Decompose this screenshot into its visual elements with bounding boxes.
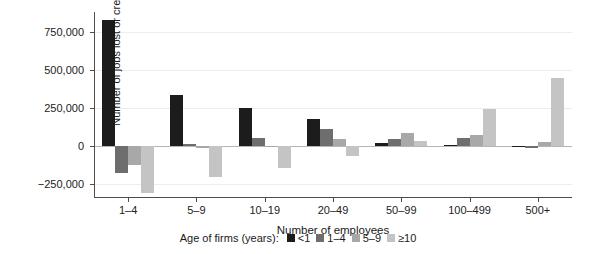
bar xyxy=(388,139,401,147)
bar xyxy=(346,146,359,156)
bar xyxy=(414,141,427,146)
x-tick-mark xyxy=(265,198,266,202)
y-axis-line xyxy=(94,12,95,198)
legend-label: ≥10 xyxy=(398,232,416,244)
bar xyxy=(457,138,470,146)
legend-label: 1–4 xyxy=(327,232,345,244)
x-tick-label: 1–4 xyxy=(119,204,137,216)
x-tick-label: 20–49 xyxy=(318,204,349,216)
bar xyxy=(333,139,346,146)
legend-swatch-icon xyxy=(287,234,295,242)
bar xyxy=(307,119,320,146)
y-tick-mark xyxy=(90,146,94,147)
bar xyxy=(141,146,154,193)
y-tick-label: 250,000 xyxy=(44,102,84,114)
x-tick-mark xyxy=(128,198,129,202)
bar xyxy=(278,146,291,167)
bar xyxy=(538,142,551,147)
zero-line xyxy=(94,146,572,147)
bar xyxy=(196,146,209,148)
x-tick-label: 50–99 xyxy=(386,204,417,216)
x-tick-mark xyxy=(401,198,402,202)
bar xyxy=(170,95,183,146)
y-tick-mark xyxy=(90,32,94,33)
x-tick-label: 100–499 xyxy=(448,204,491,216)
x-tick-mark xyxy=(196,198,197,202)
legend-label: 5–9 xyxy=(363,232,381,244)
bar xyxy=(470,135,483,146)
bar xyxy=(115,146,128,173)
x-tick-mark xyxy=(538,198,539,202)
bar xyxy=(401,133,414,146)
legend-item: 1–4 xyxy=(316,232,345,244)
y-tick-label: 750,000 xyxy=(44,26,84,38)
x-tick-label: 10–19 xyxy=(249,204,280,216)
y-tick-label: −250,000 xyxy=(38,178,84,190)
gridline xyxy=(94,108,572,109)
bar xyxy=(252,138,265,146)
legend-label: <1 xyxy=(298,232,311,244)
bar xyxy=(375,143,388,146)
bar xyxy=(183,144,196,146)
y-tick-label: 0 xyxy=(78,140,84,152)
y-axis-title: Number of jobs lost or created xyxy=(110,0,122,132)
gridline xyxy=(94,32,572,33)
legend-swatch-icon xyxy=(352,234,360,242)
legend-item: <1 xyxy=(287,232,311,244)
x-tick-mark xyxy=(470,198,471,202)
bar xyxy=(320,129,333,146)
legend: Age of firms (years): <11–45–9≥10 xyxy=(0,232,596,244)
plot-area: −250,0000250,000500,000750,000 1–45–910–… xyxy=(94,12,572,198)
legend-title: Age of firms (years): xyxy=(180,232,279,244)
bar xyxy=(209,146,222,176)
legend-swatch-icon xyxy=(316,234,324,242)
x-tick-mark xyxy=(333,198,334,202)
bar xyxy=(551,78,564,147)
legend-swatch-icon xyxy=(387,234,395,242)
y-tick-mark xyxy=(90,70,94,71)
bar xyxy=(525,146,538,148)
gridline xyxy=(94,70,572,71)
y-tick-mark xyxy=(90,184,94,185)
gridline xyxy=(94,184,572,185)
chart-container: −250,0000250,000500,000750,000 1–45–910–… xyxy=(0,0,596,254)
bar xyxy=(239,108,252,146)
y-tick-mark xyxy=(90,108,94,109)
bar xyxy=(128,146,141,165)
y-tick-label: 500,000 xyxy=(44,64,84,76)
bar xyxy=(444,145,457,146)
legend-item: ≥10 xyxy=(387,232,416,244)
x-tick-label: 500+ xyxy=(525,204,550,216)
bar xyxy=(512,146,525,147)
bar xyxy=(483,109,496,146)
x-tick-label: 5–9 xyxy=(187,204,205,216)
bar xyxy=(265,146,278,147)
legend-item: 5–9 xyxy=(352,232,381,244)
